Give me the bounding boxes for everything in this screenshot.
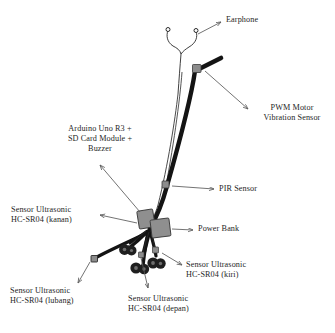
- label-ultrasonic-kanan: Sensor Ultrasonic HC-SR04 (kanan): [11, 205, 97, 225]
- leader-earphone: [198, 22, 221, 34]
- earphone-bud-left: [166, 28, 170, 32]
- ultrasonic-depan-module-box: [139, 252, 145, 258]
- leader-pir: [172, 186, 214, 189]
- label-earphone: Earphone: [226, 15, 258, 25]
- pwm-motor-vibration-sensor-component: [193, 65, 202, 73]
- label-arduino-uno-r3-sd-card-buzzer: Arduino Uno R3 + SD Card Module + Buzzer: [44, 124, 156, 155]
- leader-lubang: [78, 262, 90, 283]
- label-ultrasonic-lubang: Sensor Ultrasonic HC-SR04 (lubang): [10, 286, 102, 306]
- label-ultrasonic-depan: Sensor Ultrasonic HC-SR04 (depan): [128, 294, 222, 314]
- ultrasonic-kiri-module-box: [153, 247, 159, 253]
- smart-cane-diagram: Earphone PWM Motor Vibration Sensor Ardu…: [0, 0, 335, 333]
- leader-kanan: [100, 215, 137, 223]
- leader-arduino: [100, 165, 140, 212]
- ultrasonic-kiri-component: [147, 257, 165, 268]
- label-ultrasonic-kiri: Sensor Ultrasonic HC-SR04 (kiri): [186, 260, 276, 280]
- ultrasonic-lubang-module-box: [91, 256, 98, 263]
- label-pwm-motor-vibration-sensor: PWM Motor Vibration Sensor: [253, 103, 331, 123]
- leader-lines: [78, 22, 248, 288]
- power-bank-component: [150, 218, 171, 238]
- earphone-bud-right: [194, 29, 198, 33]
- label-pir-sensor: PIR Sensor: [219, 184, 257, 194]
- ultrasonic-depan-component: [130, 262, 149, 274]
- diagram-canvas: [0, 0, 335, 333]
- leader-pwm-motor: [205, 71, 248, 109]
- pir-sensor-component: [162, 181, 169, 188]
- leader-power-bank: [172, 229, 193, 230]
- label-power-bank: Power Bank: [198, 224, 239, 234]
